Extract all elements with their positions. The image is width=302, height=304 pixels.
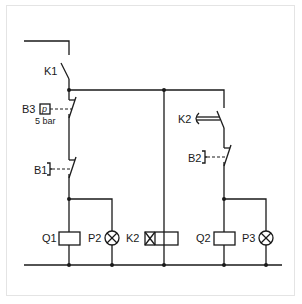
wire-p2-branch xyxy=(69,199,112,231)
wire-p3-branch xyxy=(224,199,266,231)
k2-coil-label: K2 xyxy=(126,232,139,244)
p2-label: P2 xyxy=(88,232,101,244)
b1-label: B1 xyxy=(34,164,47,176)
k1-label: K1 xyxy=(44,65,57,77)
circuit-schematic: K1 p B3 5 bar B1 Q1 xyxy=(0,0,302,304)
q2-coil: Q2 xyxy=(196,199,235,265)
wire-horizontal-top xyxy=(69,90,224,108)
b3-label: B3 xyxy=(22,103,35,115)
p2-lamp: P2 xyxy=(88,231,119,265)
bottom-bus xyxy=(24,263,282,267)
q2-label: Q2 xyxy=(196,232,211,244)
b3-pressure-switch: p B3 5 bar xyxy=(22,90,76,160)
k1-contact: K1 xyxy=(44,63,69,90)
q1-coil: Q1 xyxy=(42,199,80,265)
supply-wire-top xyxy=(24,41,69,55)
delay-arc-icon xyxy=(196,113,199,124)
pushbutton-actuator-icon xyxy=(202,151,205,163)
b2-pushbutton: B2 xyxy=(188,145,231,199)
p3-lamp: P3 xyxy=(242,231,273,265)
k2-coil: K2 xyxy=(126,232,178,245)
pressure-symbol: p xyxy=(41,104,47,114)
q1-label: Q1 xyxy=(42,232,57,244)
b1-pushbutton: B1 xyxy=(34,157,76,199)
p3-label: P3 xyxy=(242,232,255,244)
k2-contact-label: K2 xyxy=(178,113,191,125)
b3-setting-label: 5 bar xyxy=(35,116,56,126)
b2-label: B2 xyxy=(188,152,201,164)
k2-delayed-contact: K2 xyxy=(178,111,224,148)
